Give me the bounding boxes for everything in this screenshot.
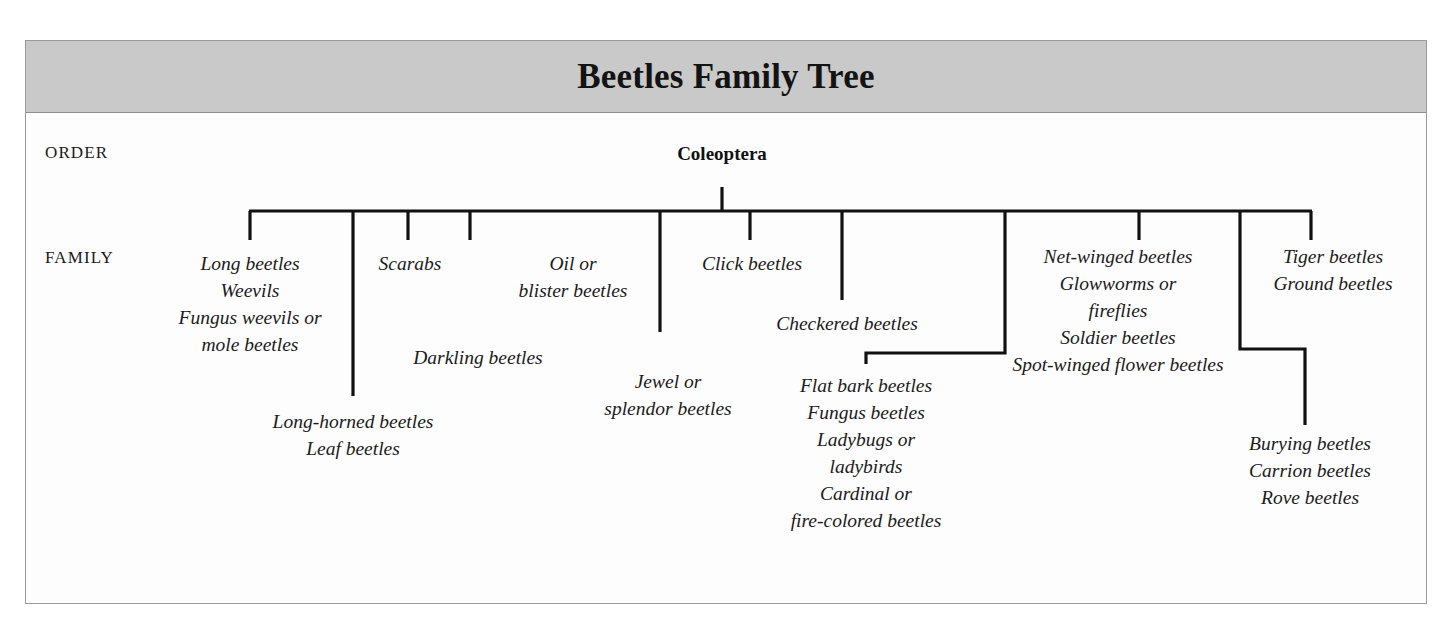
leaf-line: Fungus beetles: [775, 399, 957, 426]
leaf-group-net-winged: Net-winged beetles Glowworms or fireflie…: [985, 243, 1251, 378]
leaf-line: fireflies: [985, 297, 1251, 324]
leaf-line: Net-winged beetles: [985, 243, 1251, 270]
leaf-group-jewel-splendor: Jewel or splendor beetles: [578, 368, 758, 422]
leaf-line: Cardinal or: [775, 480, 957, 507]
leaf-group-darkling: Darkling beetles: [378, 344, 578, 371]
rank-label-order: ORDER: [45, 143, 108, 163]
leaf-group-checkered: Checkered beetles: [757, 310, 937, 337]
leaf-line: blister beetles: [483, 277, 663, 304]
leaf-line: Darkling beetles: [378, 344, 578, 371]
order-node-coleoptera: Coleoptera: [642, 143, 802, 165]
leaf-line: Burying beetles: [1222, 430, 1398, 457]
leaf-line: Flat bark beetles: [775, 372, 957, 399]
leaf-line: fire-colored beetles: [775, 507, 957, 534]
leaf-line: Oil or: [483, 250, 663, 277]
leaf-group-flat-bark: Flat bark beetles Fungus beetles Ladybug…: [775, 372, 957, 534]
leaf-line: Fungus weevils or: [130, 304, 370, 331]
beetles-family-tree-diagram: Beetles Family Tree ORDER FAMILY Coleopt…: [0, 0, 1452, 632]
leaf-line: Tiger beetles: [1243, 243, 1423, 270]
leaf-line: Click beetles: [672, 250, 832, 277]
leaf-line: Soldier beetles: [985, 324, 1251, 351]
leaf-line: Glowworms or: [985, 270, 1251, 297]
leaf-line: Leaf beetles: [238, 435, 468, 462]
leaf-group-long-horned: Long-horned beetles Leaf beetles: [238, 408, 468, 462]
leaf-line: ladybirds: [775, 453, 957, 480]
leaf-group-click-beetles: Click beetles: [672, 250, 832, 277]
page-title: Beetles Family Tree: [26, 41, 1426, 113]
leaf-line: Carrion beetles: [1222, 457, 1398, 484]
leaf-line: Scarabs: [320, 250, 500, 277]
leaf-group-oil-blister: Oil or blister beetles: [483, 250, 663, 304]
leaf-group-scarabs: Scarabs: [320, 250, 500, 277]
leaf-line: splendor beetles: [578, 395, 758, 422]
leaf-line: Ladybugs or: [775, 426, 957, 453]
leaf-line: mole beetles: [130, 331, 370, 358]
rank-label-family: FAMILY: [45, 248, 114, 268]
leaf-group-tiger-ground: Tiger beetles Ground beetles: [1243, 243, 1423, 297]
leaf-line: Rove beetles: [1222, 484, 1398, 511]
leaf-line: Ground beetles: [1243, 270, 1423, 297]
leaf-line: Weevils: [130, 277, 370, 304]
leaf-line: Checkered beetles: [757, 310, 937, 337]
leaf-line: Long-horned beetles: [238, 408, 468, 435]
leaf-group-burying: Burying beetles Carrion beetles Rove bee…: [1222, 430, 1398, 511]
leaf-line: Spot-winged flower beetles: [985, 351, 1251, 378]
leaf-line: Jewel or: [578, 368, 758, 395]
